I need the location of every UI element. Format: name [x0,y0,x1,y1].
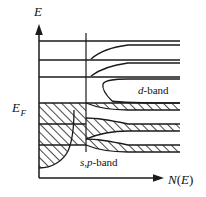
dos-figure-canvas: E EF d-band s,p-band N(E) [0,0,206,197]
dos-axis-label: N(E) [167,172,193,187]
energy-axis-label: E [33,4,42,19]
empty-subband-curve-3-lower [112,101,180,103]
dos-axis-label-arg: E [180,172,189,187]
empty-subband-curve-2 [91,63,180,76]
sp-band-label: s,p-band [80,156,118,168]
energy-axis-arrowhead [35,24,43,35]
d-band-occupied-subband-2 [86,118,180,139]
dos-axis-label-paren-close: ) [189,172,193,187]
d-band-label: d-band [138,84,169,96]
sp-band-label-rest: -band [93,156,119,168]
fermi-level-label-sub: F [19,108,26,118]
dos-figure: E EF d-band s,p-band N(E) [0,0,206,197]
d-band-occupied-subband-3 [86,103,180,110]
d-band-label-rest: -band [144,84,170,96]
empty-subband-curve-1 [91,45,180,59]
fermi-level-label: EF [11,100,26,118]
dos-axis-arrowhead [153,174,164,182]
fermi-level-label-main: E [11,100,20,115]
